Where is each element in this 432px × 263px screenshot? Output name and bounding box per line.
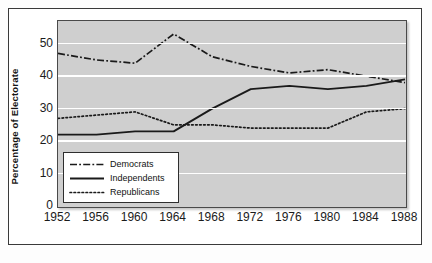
y-axis-title: Percentage of Electorate <box>4 42 24 210</box>
x-axis-tick-labels: 1952195619601964196819721976198019841988 <box>57 211 407 233</box>
dash-dot-line-icon <box>70 160 104 169</box>
gridline <box>58 140 406 142</box>
series-line-republicans <box>58 109 405 128</box>
gridline <box>58 43 406 45</box>
x-tick-label: 1972 <box>236 211 263 223</box>
gridline <box>58 75 406 77</box>
x-tick-label: 1960 <box>121 211 148 223</box>
figure-container: Percentage of Electorate 01020304050 195… <box>0 0 432 263</box>
solid-line-icon <box>70 174 104 183</box>
y-tick-label: 20 <box>27 134 53 146</box>
legend-label: Democrats <box>110 160 154 169</box>
x-tick-label: 1964 <box>159 211 186 223</box>
y-tick-label: 40 <box>27 69 53 81</box>
legend-item-republicans: Republicans <box>70 186 172 199</box>
x-tick-label: 1984 <box>352 211 379 223</box>
x-tick-label: 1956 <box>82 211 109 223</box>
legend-label: Independents <box>110 174 165 183</box>
x-tick-label: 1980 <box>314 211 341 223</box>
dotted-line-icon <box>70 188 104 197</box>
legend-item-independents: Independents <box>70 172 172 185</box>
y-tick-label: 10 <box>27 167 53 179</box>
y-tick-label: 50 <box>27 37 53 49</box>
x-tick-label: 1968 <box>198 211 225 223</box>
legend-label: Republicans <box>110 188 160 197</box>
x-tick-label: 1976 <box>275 211 302 223</box>
legend: DemocratsIndependentsRepublicans <box>63 152 179 203</box>
x-tick-label: 1952 <box>44 211 71 223</box>
y-axis-title-label: Percentage of Electorate <box>9 68 20 184</box>
x-tick-label: 1988 <box>391 211 418 223</box>
gridline <box>58 108 406 110</box>
legend-item-democrats: Democrats <box>70 158 172 171</box>
y-tick-label: 30 <box>27 102 53 114</box>
